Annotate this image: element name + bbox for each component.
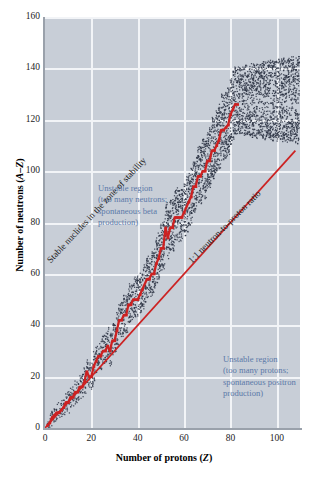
- y-tick-label: 40: [10, 319, 40, 329]
- x-tick-label: 100: [262, 433, 292, 443]
- y-axis-title-end: ): [14, 158, 25, 161]
- nuclide-stability-chart: Unstable region (too many neutrons; spon…: [0, 0, 328, 479]
- y-tick-label: 140: [10, 62, 40, 72]
- y-axis-title: Number of neutrons (A–Z): [14, 115, 25, 315]
- y-axis-title-main: Number of neutrons (: [14, 180, 25, 272]
- annotation-unstable-proton-rich: Unstable region (too many protons; spont…: [223, 354, 296, 399]
- x-axis-title-main: Number of protons (: [116, 452, 203, 463]
- x-axis-line: [45, 428, 302, 430]
- x-tick-label: 60: [169, 433, 199, 443]
- y-axis-line: [43, 17, 45, 430]
- y-tick-label: 0: [10, 422, 40, 432]
- y-axis-title-symbol: A–Z: [14, 162, 25, 180]
- x-axis-title: Number of protons (Z): [0, 452, 328, 463]
- y-tick-label: 160: [10, 11, 40, 21]
- y-tick-label: 20: [10, 371, 40, 381]
- x-tick-label: 80: [215, 433, 245, 443]
- x-axis-title-end: ): [209, 452, 212, 463]
- x-tick-label: 20: [76, 433, 106, 443]
- x-tick-label: 40: [123, 433, 153, 443]
- x-tick-label: 0: [30, 433, 60, 443]
